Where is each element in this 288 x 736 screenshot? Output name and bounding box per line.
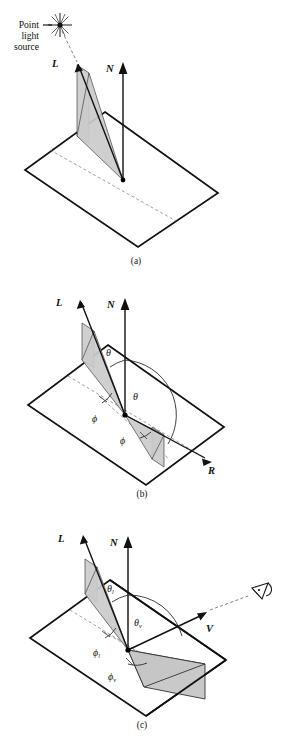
panel-a-drawing: Point light source L N (a) (0, 0, 288, 272)
panel-b-caption: (b) (137, 489, 148, 500)
panel-c: L N V θl θv (0, 504, 288, 736)
vector-N-arrowhead (121, 298, 130, 310)
point-light-source-label-line1: Point (19, 19, 40, 30)
vector-N-label: N (106, 299, 115, 310)
vector-V-label: V (206, 623, 214, 634)
vector-V-arrowhead (197, 612, 207, 621)
vector-N-arrowhead (124, 536, 133, 548)
panel-a-caption: (a) (131, 256, 141, 267)
panel-a: Point light source L N (a) (0, 0, 288, 272)
view-ray-dashed (210, 596, 248, 610)
point-light-source-label-line3: source (14, 41, 39, 52)
vector-L-label: L (51, 58, 58, 69)
panel-c-caption: (c) (137, 720, 147, 731)
vector-L-arrowhead (80, 535, 88, 545)
panel-b: L N R θ θ ϕ ϕ (b) (0, 272, 288, 504)
origin-point (121, 178, 126, 183)
panel-c-drawing: L N V θl θv (0, 504, 288, 736)
origin-point (122, 412, 127, 417)
angle-phi-incident-label: ϕ (92, 413, 97, 424)
vector-N-label: N (105, 63, 114, 74)
origin-point (125, 647, 130, 652)
angle-theta-reflect-label: θ (133, 391, 138, 402)
angle-theta-incident-label: θ (106, 347, 111, 358)
light-ray-dashed (62, 31, 77, 62)
vector-L-label: L (55, 297, 62, 308)
angle-phi-reflect-label: ϕ (120, 435, 125, 446)
vector-N-label: N (109, 537, 118, 548)
vector-N-arrowhead (119, 62, 128, 74)
panel-b-drawing: L N R θ θ ϕ ϕ (b) (0, 272, 288, 504)
point-light-source-label-line2: light (21, 30, 39, 41)
illumination-geometry-figure: Point light source L N (a) (0, 0, 288, 736)
eye-viewer-icon (252, 583, 272, 599)
vector-R-label: R (207, 465, 215, 476)
vector-L-label: L (57, 533, 64, 544)
